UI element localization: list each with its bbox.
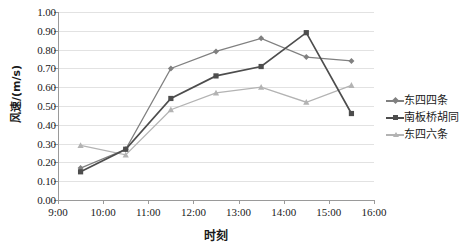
legend-item-2[interactable]: 东四六条 <box>386 126 464 143</box>
chart-legend: 东四四条南板桥胡同东四六条 <box>386 92 464 143</box>
y-axis-title: 风速/(m/s) <box>7 49 23 139</box>
data-point-marker <box>78 169 83 174</box>
series-0 <box>78 35 355 171</box>
data-point-marker <box>349 111 354 116</box>
series-line <box>81 38 352 168</box>
data-point-marker <box>304 30 309 35</box>
data-point-marker <box>258 35 264 41</box>
data-point-marker <box>259 64 264 69</box>
series-line <box>81 85 352 155</box>
legend-item-0[interactable]: 东四四条 <box>386 92 464 109</box>
legend-label: 南板桥胡同 <box>404 112 459 124</box>
legend-label: 东四四条 <box>404 95 448 107</box>
data-point-marker <box>348 82 354 88</box>
legend-marker-icon <box>386 112 404 123</box>
legend-label: 东四六条 <box>404 129 448 141</box>
data-point-marker <box>303 54 309 60</box>
data-point-marker <box>168 65 174 71</box>
legend-marker-icon <box>386 129 404 140</box>
data-point-marker <box>168 96 173 101</box>
data-point-marker <box>213 48 219 54</box>
legend-marker-icon <box>386 95 404 106</box>
x-axis-title: 时刻 <box>0 226 432 243</box>
data-point-marker <box>123 147 128 152</box>
wind-speed-line-chart: 0.000.100.200.300.400.500.600.700.800.90… <box>0 0 464 249</box>
data-point-marker <box>213 73 218 78</box>
data-point-marker <box>77 142 83 148</box>
legend-item-1[interactable]: 南板桥胡同 <box>386 109 464 126</box>
data-point-marker <box>348 58 354 64</box>
series-2 <box>77 82 354 157</box>
